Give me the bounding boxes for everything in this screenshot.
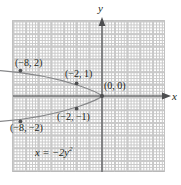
point-label-p2: (−2, 1) — [65, 69, 92, 79]
equation-exponent: 2 — [69, 145, 73, 153]
data-point-p3 — [100, 94, 104, 98]
point-label-p4: (−2, −1) — [57, 112, 90, 122]
equation-annotation: x = −2y2 — [35, 146, 73, 158]
x-axis — [13, 93, 171, 100]
point-label-p5: (−8, −2) — [10, 123, 43, 133]
x-axis-label: x — [172, 91, 177, 102]
data-point-p2 — [75, 81, 79, 85]
y-axis-label: y — [98, 3, 103, 14]
graph-overlay — [0, 0, 181, 185]
point-label-p3: (0, 0) — [104, 81, 126, 91]
data-point-p1 — [19, 69, 23, 73]
equation-text: x = −2y — [35, 147, 69, 158]
point-label-p1: (−8, 2) — [15, 58, 42, 68]
graph-figure: y x (−8, 2) (−2, 1) (0, 0) (−2, −1) (−8,… — [0, 0, 181, 185]
